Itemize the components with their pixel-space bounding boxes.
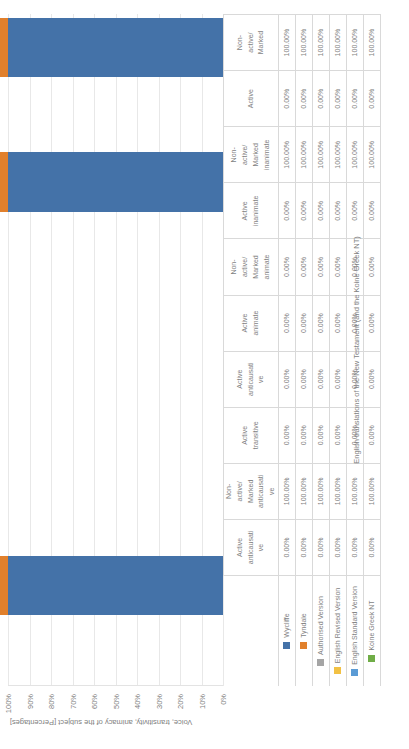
y-axis-tick-label: 100%: [4, 694, 13, 713]
table-cell-value: 100.00%: [295, 463, 312, 519]
legend-color-swatch: [317, 659, 324, 666]
table-cell-value: 0.00%: [329, 71, 346, 127]
table-cell-value: 0.00%: [278, 71, 295, 127]
table-cell-value: 0.00%: [312, 407, 329, 463]
rotated-figure-wrapper: Voice, transitivity, animacy of the subj…: [0, 0, 409, 749]
table-cell-value: 0.00%: [312, 239, 329, 295]
table-cell-value: 0.00%: [295, 407, 312, 463]
stacked-bar[interactable]: [0, 556, 223, 615]
column-header-line: Active: [235, 352, 246, 407]
table-cell-value: 100.00%: [278, 15, 295, 71]
y-axis-tick-label: 30%: [154, 694, 163, 709]
table-head: ActiveanticausativeNon-active/Markedanti…: [224, 15, 279, 687]
bar-slot: [8, 350, 223, 417]
table-cell-value: 0.00%: [278, 407, 295, 463]
legend-series-name: English Revised Version: [334, 588, 341, 664]
column-header-line: animate: [262, 239, 273, 294]
column-header: Activeanimate: [224, 295, 279, 351]
column-header-line: Active: [240, 296, 251, 351]
column-header-line: ve: [256, 352, 267, 407]
table-cell-value: 100.00%: [329, 463, 346, 519]
table-cell-value: 0.00%: [295, 295, 312, 351]
legend-row-label: English Revised Version: [329, 576, 346, 687]
table-cell-value: 0.00%: [295, 71, 312, 127]
bar-segment[interactable]: [0, 556, 8, 615]
column-header-line: Active: [240, 408, 251, 463]
y-axis: 0%10%20%30%40%50%60%70%80%90%100%: [8, 689, 223, 749]
table-cell-value: 100.00%: [329, 15, 346, 71]
table-cell-value: 100.00%: [312, 127, 329, 183]
legend-color-swatch: [283, 642, 290, 649]
column-header: Non-active/Markedinanimate: [224, 127, 279, 183]
bar-slot: [8, 14, 223, 81]
column-header-line: Non-: [229, 239, 240, 294]
legend-color-swatch: [300, 642, 307, 649]
legend-row-label: Koine Greek NT: [363, 576, 380, 687]
column-header-line: Marked: [251, 239, 262, 294]
y-axis-tick-label: 80%: [47, 694, 56, 709]
table-cell-value: 0.00%: [278, 351, 295, 407]
table-cell-value: 0.00%: [312, 351, 329, 407]
table-cell-value: 0.00%: [312, 519, 329, 575]
stacked-bar[interactable]: [0, 18, 223, 77]
table-cell-value: 0.00%: [278, 295, 295, 351]
table-cell-value: 100.00%: [363, 15, 380, 71]
column-header: Non-active/Markedanimate: [224, 239, 279, 295]
table-cell-value: 0.00%: [363, 183, 380, 239]
table-cell-value: 100.00%: [278, 127, 295, 183]
table-cell-value: 100.00%: [295, 127, 312, 183]
table-cell-value: 0.00%: [295, 239, 312, 295]
column-header-line: anticausati: [246, 520, 257, 575]
bar-slot: [8, 619, 223, 686]
bar-segment[interactable]: [0, 18, 8, 77]
legend-color-swatch: [334, 667, 341, 674]
table-cell-value: 0.00%: [329, 407, 346, 463]
bar-segment[interactable]: [0, 152, 8, 211]
column-header-line: Marked: [256, 15, 267, 70]
column-header-line: ve: [256, 520, 267, 575]
stacked-bar[interactable]: [0, 152, 223, 211]
table-cell-value: 0.00%: [312, 295, 329, 351]
column-header-line: active/: [240, 239, 251, 294]
table-cell-value: 100.00%: [295, 15, 312, 71]
bar-slot: [8, 81, 223, 148]
y-axis-tick-label: 90%: [25, 694, 34, 709]
bar-segment[interactable]: [8, 18, 223, 77]
table-header-row: ActiveanticausativeNon-active/Markedanti…: [224, 15, 279, 687]
column-header-line: Marked: [251, 127, 262, 182]
column-header-line: active/: [240, 127, 251, 182]
table-cell-value: 100.00%: [312, 15, 329, 71]
table-cell-value: 0.00%: [295, 519, 312, 575]
table-cell-value: 100.00%: [363, 463, 380, 519]
table-cell-value: 0.00%: [312, 183, 329, 239]
table-cell-value: 0.00%: [363, 295, 380, 351]
column-header-line: Active: [235, 520, 246, 575]
table-cell-value: 100.00%: [312, 463, 329, 519]
column-header-line: anticausati: [256, 464, 267, 519]
table-cell-value: 0.00%: [329, 295, 346, 351]
column-header: Activetransitive: [224, 407, 279, 463]
table-row: Wycliffe0.00%100.00%0.00%0.00%0.00%0.00%…: [278, 15, 295, 687]
bar-slot: [8, 148, 223, 215]
table-cell-value: 0.00%: [329, 519, 346, 575]
column-header-line: active/: [235, 464, 246, 519]
bar-slot: [8, 216, 223, 283]
column-header-line: Non-: [224, 464, 235, 519]
table-cell-value: 100.00%: [329, 127, 346, 183]
table-cell-value: 0.00%: [278, 519, 295, 575]
table-row: English Revised Version0.00%100.00%0.00%…: [329, 15, 346, 687]
bar-segment[interactable]: [8, 556, 223, 615]
legend-row-label: Tyndale: [295, 576, 312, 687]
bar-segment[interactable]: [8, 152, 223, 211]
column-header: Activeinanimate: [224, 183, 279, 239]
table-corner-cell: [224, 576, 279, 687]
chart-figure: Voice, transitivity, animacy of the subj…: [0, 0, 409, 749]
table-row: Authorised Version0.00%100.00%0.00%0.00%…: [312, 15, 329, 687]
table-cell-value: 100.00%: [363, 127, 380, 183]
column-header-line: animate: [251, 296, 262, 351]
bar-slot: [8, 283, 223, 350]
column-header-line: transitive: [251, 408, 262, 463]
column-header: Non-active/Markedanticausative: [224, 463, 279, 519]
column-header: Non-active/Marked: [224, 15, 279, 71]
table-cell-value: 100.00%: [278, 463, 295, 519]
